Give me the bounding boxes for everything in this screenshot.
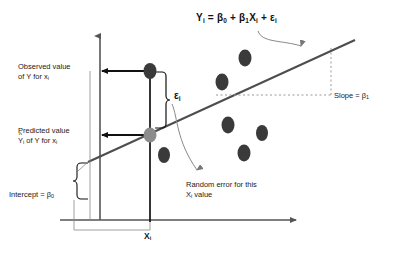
observed-value-label: Observed value of Y for xi: [18, 62, 71, 83]
slope-sub: 1: [366, 94, 369, 100]
intercept-sub: 0: [51, 193, 54, 199]
scatter-point: [238, 145, 251, 162]
equation-plus-2: +: [258, 12, 270, 23]
predicted-value-line-1: Predicted value: [18, 126, 70, 136]
equation-plus-1: +: [227, 12, 239, 23]
predicted-value-line-2: ^Yi of Y for xi: [18, 136, 70, 148]
observed-value-line-2-text: of Y for x: [18, 72, 48, 81]
x-axis-tick-label: Xi: [144, 232, 151, 244]
scatter-point: [239, 50, 252, 67]
intercept-label: Intercept = β0: [9, 190, 54, 202]
x-axis-tick-sub: i: [150, 235, 152, 241]
equation-epsilon-sub: i: [275, 17, 277, 24]
random-error-line-2: Xi value: [186, 190, 257, 202]
predicted-data-point: [144, 128, 157, 143]
observed-data-point: [144, 63, 157, 79]
random-error-line-1: Random error for this: [186, 180, 257, 190]
slope-label: Slope = β1: [334, 91, 369, 103]
residual-epsilon-sub: i: [179, 95, 181, 102]
equation-eq: =: [205, 12, 217, 23]
predicted-value-label: Predicted value ^Yi of Y for xi: [18, 126, 70, 147]
observed-value-line-2: of Y for xi: [18, 72, 71, 84]
slope-text: Slope = β: [334, 91, 366, 100]
predicted-value-rest: of Y for x: [24, 136, 56, 145]
observed-value-line-2-sub: i: [48, 75, 49, 81]
y-hat-symbol: ^Y: [18, 136, 23, 146]
scatter-point: [158, 147, 170, 163]
scatter-point: [256, 125, 268, 141]
regression-line: [88, 40, 355, 162]
regression-diagram: Yi = β0 + β1Xi + εi Observed value of Y …: [0, 0, 393, 255]
intercept-text: Intercept = β: [9, 190, 51, 199]
observed-value-line-1: Observed value: [18, 62, 71, 72]
residual-epsilon-label: εi: [174, 90, 181, 102]
scatter-point: [216, 74, 229, 91]
random-error-annotation: Random error for this Xi value: [186, 180, 257, 201]
random-error-rest: value: [192, 190, 212, 199]
residual-brace: [155, 72, 170, 128]
equation-pointer-curve: [258, 31, 301, 46]
scatter-point: [222, 117, 235, 134]
predicted-value-rest-sub: i: [56, 139, 57, 145]
equation-y: Y: [196, 12, 203, 23]
regression-equation: Yi = β0 + β1Xi + εi: [196, 12, 277, 24]
hat-accent-icon: ^: [18, 131, 23, 138]
